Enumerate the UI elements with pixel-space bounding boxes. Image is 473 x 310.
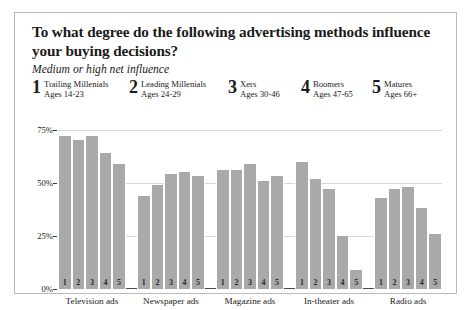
plot-area: 75%50%25%0%12345Television ads12345Newsp… bbox=[58, 119, 442, 289]
bar-series-number: 1 bbox=[217, 279, 229, 287]
y-axis-label: 0% bbox=[42, 284, 53, 294]
bar-series-number: 1 bbox=[296, 279, 308, 287]
bar[interactable]: 2 bbox=[151, 185, 165, 289]
category-label: Television ads bbox=[58, 296, 126, 306]
bar-series-number: 4 bbox=[337, 279, 349, 287]
bar[interactable]: 4 bbox=[336, 236, 350, 289]
y-axis-tick bbox=[53, 236, 57, 237]
legend-number: 3 bbox=[228, 79, 237, 96]
bar[interactable]: 3 bbox=[322, 189, 336, 289]
bar[interactable]: 1 bbox=[295, 162, 309, 290]
legend: 1Trailing MillenialsAges 14-232Leading M… bbox=[32, 79, 444, 105]
bar-group-television-ads: 12345Television ads bbox=[58, 119, 126, 289]
bar-series-number: 1 bbox=[59, 279, 71, 287]
bar-series-number: 4 bbox=[100, 279, 112, 287]
legend-item-3: 3XersAges 30-46 bbox=[228, 79, 280, 105]
bar[interactable]: 3 bbox=[243, 164, 257, 289]
chart-card: To what degree do the following advertis… bbox=[14, 12, 457, 294]
bar-series-number: 2 bbox=[389, 279, 401, 287]
legend-item-5: 5MaturesAges 66+ bbox=[372, 79, 417, 105]
bar[interactable]: 3 bbox=[164, 174, 178, 289]
bar[interactable]: 2 bbox=[230, 170, 244, 289]
y-axis-label: 75% bbox=[37, 125, 53, 135]
bar-series-number: 5 bbox=[429, 279, 441, 287]
bar-series-number: 2 bbox=[73, 279, 85, 287]
y-axis-label: 25% bbox=[37, 231, 53, 241]
y-axis-tick bbox=[53, 289, 57, 290]
bar[interactable]: 2 bbox=[72, 140, 86, 289]
bar-series-number: 3 bbox=[244, 279, 256, 287]
legend-number: 2 bbox=[129, 79, 138, 96]
bar-series-number: 1 bbox=[138, 279, 150, 287]
legend-group-ages: Ages 24-29 bbox=[141, 90, 206, 100]
bar[interactable]: 4 bbox=[257, 181, 271, 289]
bar[interactable]: 3 bbox=[85, 136, 99, 289]
category-label: Newspaper ads bbox=[137, 296, 205, 306]
bar[interactable]: 5 bbox=[428, 234, 442, 289]
bar-group-radio-ads: 12345Radio ads bbox=[374, 119, 442, 289]
chart-subtitle: Medium or high net influence bbox=[32, 63, 169, 76]
bar-series-number: 5 bbox=[192, 279, 204, 287]
legend-number: 5 bbox=[372, 79, 381, 96]
legend-item-4: 4BoomersAges 47-65 bbox=[301, 79, 353, 105]
bar[interactable]: 1 bbox=[374, 198, 388, 289]
bar[interactable]: 5 bbox=[191, 176, 205, 289]
bar-series-number: 3 bbox=[86, 279, 98, 287]
bar-series-number: 3 bbox=[165, 279, 177, 287]
bar-series-number: 2 bbox=[310, 279, 322, 287]
bar[interactable]: 2 bbox=[309, 179, 323, 290]
bar-series-number: 2 bbox=[231, 279, 243, 287]
bar-series-number: 2 bbox=[152, 279, 164, 287]
bar[interactable]: 4 bbox=[415, 208, 429, 289]
bar-series-number: 5 bbox=[113, 279, 125, 287]
bar[interactable]: 3 bbox=[401, 187, 415, 289]
legend-group-ages: Ages 47-65 bbox=[313, 90, 353, 100]
category-label: Magazine ads bbox=[216, 296, 284, 306]
legend-group-ages: Ages 14-23 bbox=[44, 90, 108, 100]
legend-item-2: 2Leading MillenialsAges 24-29 bbox=[129, 79, 206, 105]
legend-group-ages: Ages 66+ bbox=[384, 90, 417, 100]
legend-number: 4 bbox=[301, 79, 310, 96]
bar-series-number: 1 bbox=[375, 279, 387, 287]
legend-item-1: 1Trailing MillenialsAges 14-23 bbox=[32, 79, 108, 105]
y-axis-tick bbox=[53, 183, 57, 184]
bar[interactable]: 1 bbox=[216, 170, 230, 289]
y-axis-label: 50% bbox=[37, 178, 53, 188]
page-title: To what degree do the following advertis… bbox=[32, 23, 442, 60]
bar-group-magazine-ads: 12345Magazine ads bbox=[216, 119, 284, 289]
bar-series-number: 3 bbox=[323, 279, 335, 287]
bar[interactable]: 4 bbox=[99, 153, 113, 289]
bar[interactable]: 1 bbox=[137, 196, 151, 290]
bar-series-number: 4 bbox=[179, 279, 191, 287]
bar-series-number: 3 bbox=[402, 279, 414, 287]
bar[interactable]: 5 bbox=[270, 176, 284, 289]
legend-number: 1 bbox=[32, 79, 41, 96]
category-label: In-theater ads bbox=[295, 296, 363, 306]
bar[interactable]: 5 bbox=[112, 164, 126, 289]
bar[interactable]: 5 bbox=[349, 270, 363, 289]
bar-group-newspaper-ads: 12345Newspaper ads bbox=[137, 119, 205, 289]
category-label: Radio ads bbox=[374, 296, 442, 306]
y-axis-tick bbox=[53, 130, 57, 131]
bar-series-number: 5 bbox=[271, 279, 283, 287]
bar-series-number: 4 bbox=[258, 279, 270, 287]
bar[interactable]: 2 bbox=[388, 189, 402, 289]
bar[interactable]: 1 bbox=[58, 136, 72, 289]
legend-group-ages: Ages 30-46 bbox=[240, 90, 280, 100]
bar-series-number: 5 bbox=[350, 279, 362, 287]
bar[interactable]: 4 bbox=[178, 172, 192, 289]
bar-group-in-theater-ads: 12345In-theater ads bbox=[295, 119, 363, 289]
bar-series-number: 4 bbox=[416, 279, 428, 287]
